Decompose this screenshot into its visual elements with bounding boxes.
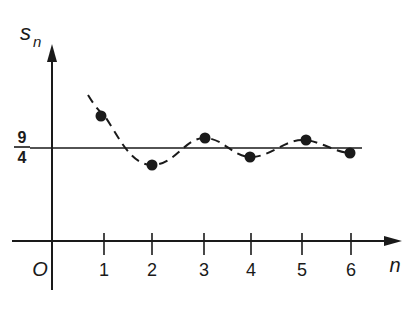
- point-1: [96, 111, 107, 122]
- limit-label-den: 4: [18, 149, 27, 166]
- y-label-sub: n: [33, 33, 41, 50]
- sequence-plot: s n 9 4 O 1 2 3 4 5 6 n: [0, 0, 410, 315]
- limit-label-num: 9: [18, 129, 27, 146]
- origin-label: O: [32, 258, 48, 280]
- point-6: [345, 148, 356, 159]
- tick-label-1: 1: [99, 260, 109, 280]
- tick-label-2: 2: [147, 260, 157, 280]
- x-ticks: [104, 233, 351, 255]
- y-label-main: s: [20, 20, 31, 45]
- point-3: [200, 133, 211, 144]
- point-5: [301, 135, 312, 146]
- tick-label-4: 4: [246, 260, 256, 280]
- data-points: [96, 111, 356, 171]
- tick-label-6: 6: [346, 260, 356, 280]
- x-axis-arrow-icon: [384, 236, 402, 246]
- tick-label-3: 3: [199, 260, 209, 280]
- x-axis-label: n: [389, 254, 400, 276]
- y-axis-arrow-icon: [47, 44, 57, 62]
- point-2: [147, 160, 158, 171]
- point-4: [245, 152, 256, 163]
- dashed-curve: [88, 95, 351, 165]
- tick-label-5: 5: [297, 260, 307, 280]
